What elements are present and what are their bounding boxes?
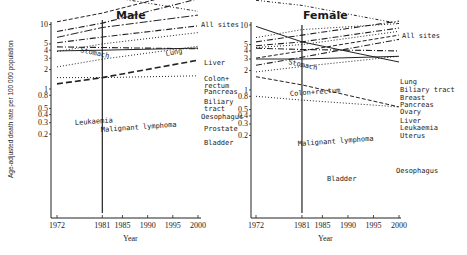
x-tick-label: 1995 — [165, 221, 181, 230]
series-line-liver — [256, 48, 399, 51]
y-tick-label: 0.2 — [238, 131, 248, 140]
male-x-axis-label: Year — [123, 234, 138, 243]
x-tick-label: 2000 — [190, 221, 206, 230]
series-line-bladder — [57, 76, 198, 78]
y-tick-label: 2 — [44, 65, 48, 74]
series-label: Bladder — [327, 175, 357, 183]
female-series: All sitesStomachLungColon+rectumBiliary … — [256, 0, 455, 183]
series-label: Ovary — [400, 108, 421, 116]
female-panel-title: Female — [303, 9, 348, 22]
series-line-ovary — [256, 39, 399, 65]
series-label: tract — [204, 105, 225, 113]
y-tick-label: 0.8 — [238, 92, 248, 101]
series-label: All sites — [201, 21, 239, 29]
series-label: Oesophagus — [201, 113, 243, 121]
series-label: Bladder — [204, 139, 234, 147]
series-label: Uterus — [400, 132, 425, 140]
series-label: All sites — [402, 32, 440, 40]
series-label: Leukaemia — [400, 124, 438, 132]
series-label: Lung — [400, 78, 417, 86]
x-tick-label: 1990 — [140, 221, 156, 230]
y-tick-label: 0.8 — [38, 91, 48, 100]
y-tick-label: 0.2 — [38, 130, 48, 139]
y-tick-label: 3 — [244, 54, 248, 63]
y-tick-label: 10 — [240, 21, 248, 30]
male-axes: 10080504010543210.80.50.40.30.2197219811… — [36, 0, 206, 230]
x-tick-label: 1995 — [365, 221, 381, 230]
y-tick-label: 0.3 — [38, 118, 48, 127]
male-panel-title: Male — [116, 9, 146, 22]
female-panel: Female 10080504010543210.80.50.40.30.219… — [236, 0, 455, 243]
y-tick-label: 2 — [244, 66, 248, 75]
x-tick-label: 2000 — [391, 221, 407, 230]
series-label: Malignant lymphoma — [298, 135, 374, 148]
y-axis-label: Age-adjusted death rate per 100 000 popu… — [7, 40, 15, 178]
male-panel: Male 10080504010543210.80.50.40.30.21972… — [36, 0, 243, 243]
y-tick-label: 10 — [40, 20, 48, 29]
x-tick-label: 1981 — [94, 221, 110, 230]
y-tick-label: 0.3 — [238, 119, 248, 128]
y-tick-label: 3 — [44, 54, 48, 63]
x-tick-label: 1972 — [49, 221, 65, 230]
x-tick-label: 1981 — [294, 221, 310, 230]
series-label: Liver — [204, 59, 225, 67]
series-label: Prostate — [204, 125, 238, 133]
series-label: Oesophagus — [396, 167, 438, 175]
female-x-axis-label: Year — [318, 234, 333, 243]
female-axes: 10080504010543210.80.50.40.30.2197219811… — [236, 0, 407, 230]
series-line-pancreas — [57, 26, 198, 43]
series-line-bladder — [256, 96, 399, 107]
male-series: All sitesStomachLungLiverColon+ rectumPa… — [57, 0, 243, 147]
x-tick-label: 1985 — [114, 221, 130, 230]
series-label: Pancreas — [204, 88, 238, 96]
series-label: Stomach — [80, 46, 111, 60]
series-label: Biliary tract — [400, 86, 455, 94]
x-tick-label: 1972 — [248, 221, 264, 230]
x-tick-label: 1985 — [314, 221, 330, 230]
cancer-mortality-figure: Age-adjusted death rate per 100 000 popu… — [0, 0, 467, 255]
x-tick-label: 1990 — [340, 221, 356, 230]
